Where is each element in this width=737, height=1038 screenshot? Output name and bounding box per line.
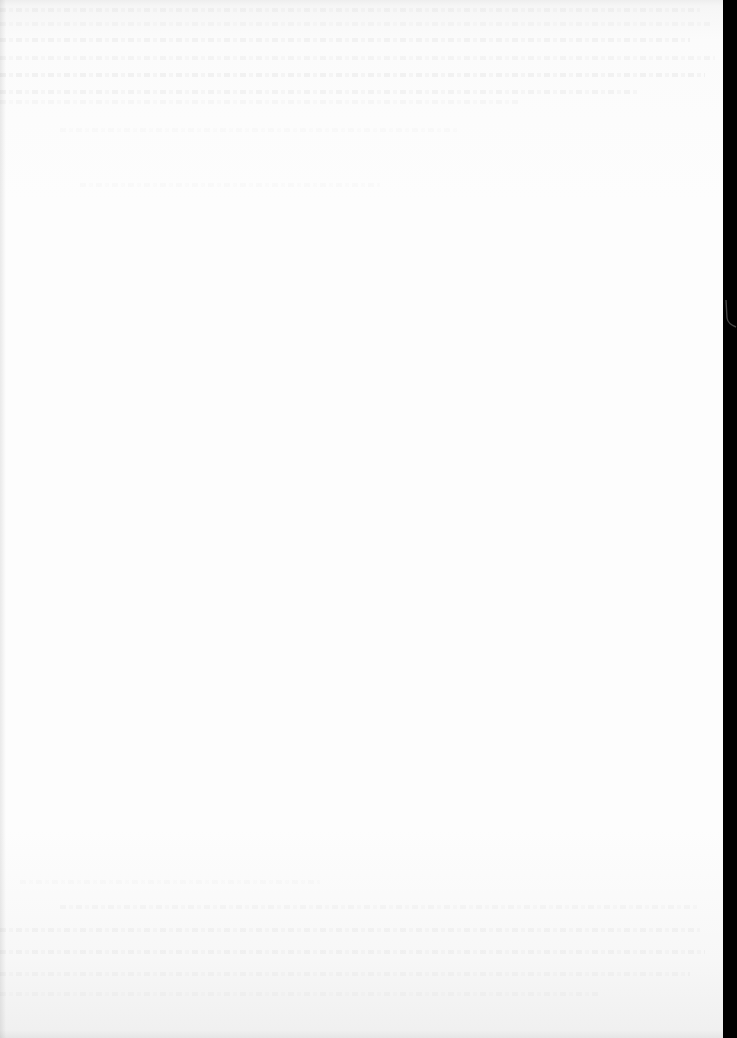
scanner-edge-strip bbox=[723, 0, 737, 1038]
bleed-through-line bbox=[20, 880, 320, 884]
page-left-edge-shadow bbox=[0, 0, 6, 1038]
bleed-through-line bbox=[80, 183, 380, 187]
bleed-through-line bbox=[0, 90, 640, 94]
bleed-through-line bbox=[0, 972, 690, 976]
bleed-through-line bbox=[0, 22, 712, 26]
bleed-through-line bbox=[60, 905, 700, 909]
bleed-through-line bbox=[0, 73, 705, 77]
bleed-through-line bbox=[0, 100, 520, 104]
bleed-through-line bbox=[0, 56, 715, 60]
bleed-through-line bbox=[0, 38, 690, 42]
blank-scanned-page bbox=[0, 0, 723, 1038]
bleed-through-line bbox=[0, 950, 705, 954]
bleed-through-line bbox=[0, 8, 700, 12]
bleed-through-line bbox=[0, 992, 600, 996]
page-edge-curl-mark bbox=[724, 298, 737, 328]
bleed-through-line bbox=[0, 928, 700, 932]
bleed-through-line bbox=[60, 128, 460, 132]
